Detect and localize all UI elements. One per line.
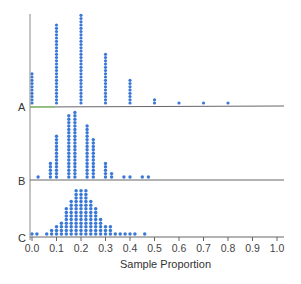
data-dot — [104, 53, 107, 56]
data-dot — [55, 92, 58, 95]
data-dot — [84, 232, 88, 236]
data-dot — [89, 221, 93, 225]
data-dot — [104, 225, 108, 229]
data-dot — [89, 225, 93, 229]
data-dot — [79, 82, 82, 85]
data-dot — [55, 49, 58, 52]
data-dot — [74, 211, 78, 215]
data-dot — [104, 162, 107, 165]
panel-label-a: A — [18, 101, 25, 113]
data-dot — [89, 232, 93, 236]
data-dot — [65, 207, 69, 211]
data-dot — [104, 75, 107, 78]
data-dot — [79, 46, 82, 49]
data-dot — [74, 196, 78, 200]
data-dot — [55, 62, 58, 65]
data-dot — [67, 138, 70, 141]
data-dot — [92, 148, 95, 151]
data-dot — [85, 152, 88, 155]
data-dot — [55, 145, 58, 148]
data-dot — [99, 225, 103, 229]
data-dot — [55, 82, 58, 85]
data-dot — [79, 79, 82, 82]
data-dot — [74, 229, 78, 233]
data-dot — [89, 200, 93, 204]
data-dot — [55, 43, 58, 46]
data-dot — [128, 95, 131, 98]
data-dot — [55, 158, 58, 161]
data-dot — [94, 221, 98, 225]
data-dot — [79, 53, 82, 56]
data-dot — [133, 232, 137, 236]
data-dot — [84, 229, 88, 233]
data-dot — [85, 158, 88, 161]
data-dot — [79, 30, 82, 33]
data-dot — [55, 225, 59, 229]
data-dot — [67, 135, 70, 138]
data-dot — [128, 79, 131, 82]
data-dot — [85, 145, 88, 148]
data-dot — [55, 56, 58, 59]
data-dot — [67, 169, 70, 172]
data-dot — [128, 82, 131, 85]
data-dot — [109, 232, 113, 236]
data-dot — [55, 98, 58, 101]
data-dot — [67, 155, 70, 158]
data-dot — [30, 85, 33, 88]
data-dot — [73, 175, 76, 178]
data-dot — [67, 128, 70, 131]
data-dot — [79, 62, 82, 65]
data-dot — [55, 155, 58, 158]
data-dot — [92, 152, 95, 155]
data-dot — [122, 175, 125, 178]
data-dot — [79, 98, 82, 101]
data-dot — [92, 165, 95, 168]
data-dot — [55, 101, 58, 104]
data-dot — [85, 148, 88, 151]
data-dot — [94, 207, 98, 211]
data-dot — [65, 211, 69, 215]
data-dot — [74, 218, 78, 222]
data-dot — [79, 193, 83, 197]
data-dot — [67, 162, 70, 165]
data-dot — [104, 69, 107, 72]
data-dot — [153, 98, 156, 101]
data-dot — [104, 172, 107, 175]
data-dot — [69, 214, 73, 218]
data-dot — [109, 229, 113, 233]
data-dot — [55, 169, 58, 172]
data-dot — [55, 79, 58, 82]
data-dot — [92, 138, 95, 141]
data-dot — [73, 141, 76, 144]
data-dot — [177, 101, 180, 104]
data-dot — [110, 172, 113, 175]
data-dot — [79, 49, 82, 52]
data-dot — [84, 196, 88, 200]
data-dot — [104, 232, 108, 236]
data-dot — [55, 59, 58, 62]
data-dot — [55, 46, 58, 49]
data-dot — [49, 172, 52, 175]
data-dot — [85, 155, 88, 158]
x-axis-ticks — [32, 237, 277, 241]
data-dot — [67, 158, 70, 161]
data-dot — [55, 135, 58, 138]
data-dot — [49, 162, 52, 165]
data-dot — [79, 88, 82, 91]
data-dot — [73, 165, 76, 168]
data-dot — [65, 229, 69, 233]
data-dot — [73, 152, 76, 155]
data-dot — [67, 114, 70, 117]
data-dot — [79, 211, 83, 215]
data-dot — [55, 152, 58, 155]
data-dot — [104, 101, 107, 104]
data-dot — [30, 88, 33, 91]
data-dot — [30, 92, 33, 95]
data-dot — [67, 141, 70, 144]
data-dot — [79, 85, 82, 88]
data-dot — [73, 145, 76, 148]
data-dot — [226, 101, 229, 104]
data-dot — [79, 200, 83, 204]
dots-layer — [30, 14, 229, 236]
data-dot — [94, 218, 98, 222]
